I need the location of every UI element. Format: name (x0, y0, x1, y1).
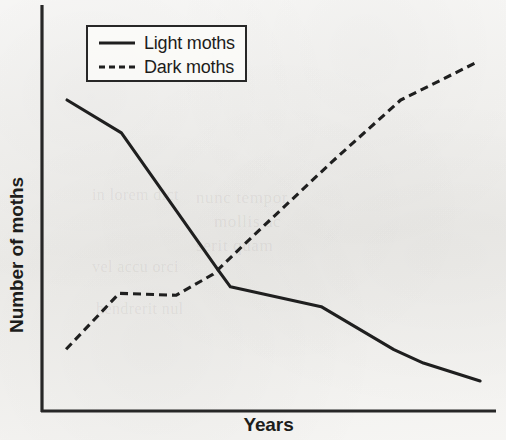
legend-label-dark-moths: Dark moths (144, 57, 234, 78)
x-axis-title: Years (41, 414, 496, 436)
y-axis-title: Number of moths (6, 155, 32, 355)
moth-population-line-chart: nunc tempor mollis ac serit quam in lore… (0, 0, 506, 440)
legend-dashed-line-icon (97, 60, 137, 74)
legend-label-light-moths: Light moths (144, 33, 235, 54)
legend-solid-line-icon (97, 36, 137, 50)
series-line-light-moths (67, 100, 480, 381)
legend-item-light-moths: Light moths (97, 31, 245, 55)
chart-legend: Light moths Dark moths (86, 25, 247, 82)
legend-item-dark-moths: Dark moths (97, 55, 245, 79)
plot-area (0, 0, 506, 440)
series-line-dark-moths (66, 63, 475, 349)
